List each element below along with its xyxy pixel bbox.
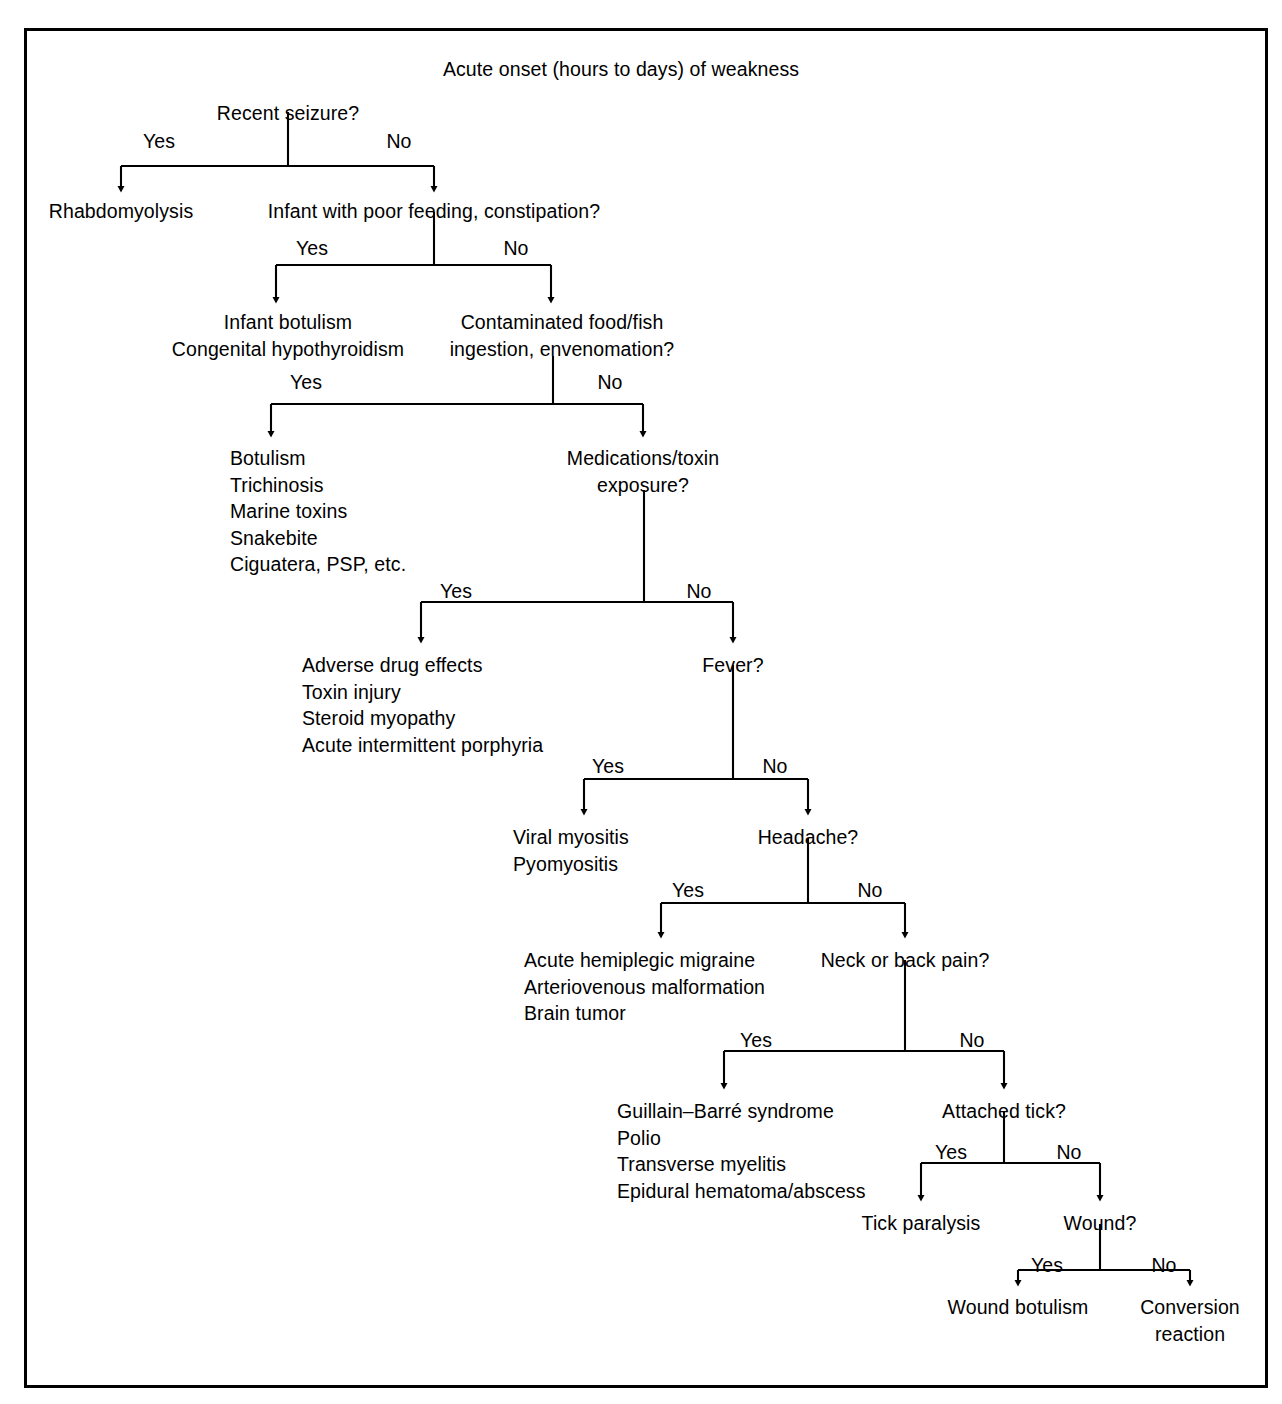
node-tick-paralysis: Tick paralysis [862,1210,981,1237]
node-wound: Wound? [1064,1210,1137,1237]
branch-medications-toxin-yes-label: Yes [440,580,472,602]
branch-recent-seizure-no-label: No [387,130,412,152]
node-contaminated-food: Contaminated food/fish ingestion, enveno… [450,309,675,362]
figure-canvas: Acute onset (hours to days) of weakness … [0,0,1282,1404]
node-gbs-outcome: Guillain–Barré syndrome Polio Transverse… [617,1098,866,1204]
figure-title: Acute onset (hours to days) of weakness [443,56,799,83]
branch-infant-poor-feeding-yes-label: Yes [296,237,328,259]
node-wound-botulism: Wound botulism [948,1294,1089,1321]
branch-fever-no-label: No [763,755,788,777]
branch-headache-yes-label: Yes [672,879,704,901]
branch-medications-toxin-no-label: No [687,580,712,602]
node-recent-seizure: Recent seizure? [217,100,359,127]
branch-headache-no-label: No [858,879,883,901]
branch-infant-poor-feeding-no-label: No [504,237,529,259]
node-infant-botulism: Infant botulism Congenital hypothyroidis… [172,309,404,362]
branch-fever-yes-label: Yes [592,755,624,777]
node-myositis-outcome: Viral myositis Pyomyositis [513,824,629,877]
branch-wound-yes-label: Yes [1031,1254,1063,1276]
branch-neck-back-pain-yes-label: Yes [740,1029,772,1051]
branch-wound-no-label: No [1152,1254,1177,1276]
node-fever: Fever? [702,652,763,679]
branch-contaminated-food-yes-label: Yes [290,371,322,393]
branch-attached-tick-no-label: No [1057,1141,1082,1163]
branch-contaminated-food-no-label: No [598,371,623,393]
node-medications-toxin: Medications/toxin exposure? [567,445,719,498]
branch-attached-tick-yes-label: Yes [935,1141,967,1163]
node-rhabdomyolysis: Rhabdomyolysis [49,198,193,225]
node-headache: Headache? [758,824,859,851]
node-migraine-outcome: Acute hemiplegic migraine Arteriovenous … [524,947,765,1027]
node-conversion-reaction: Conversion reaction [1140,1294,1240,1347]
branch-neck-back-pain-no-label: No [960,1029,985,1051]
node-attached-tick: Attached tick? [942,1098,1066,1125]
node-infant-poor-feeding: Infant with poor feeding, constipation? [268,198,600,225]
branch-recent-seizure-yes-label: Yes [143,130,175,152]
node-toxin-outcome: Botulism Trichinosis Marine toxins Snake… [230,445,406,578]
node-neck-back-pain: Neck or back pain? [821,947,990,974]
node-drug-outcome: Adverse drug effects Toxin injury Steroi… [302,652,543,758]
